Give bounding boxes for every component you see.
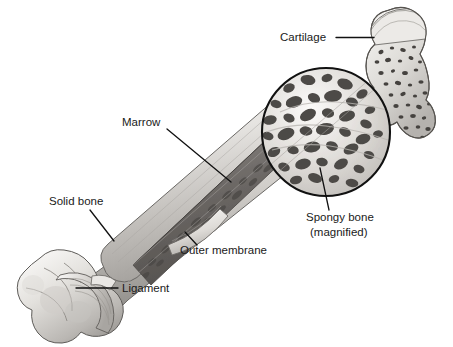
label-solid-bone: Solid bone [49, 195, 103, 207]
bone-illustration-svg: Cartilage Marrow Solid bone Outer membra… [0, 0, 453, 347]
label-outer-membrane: Outer membrane [180, 244, 267, 256]
label-spongy-bone: Spongy bone [306, 211, 374, 223]
bone-anatomy-figure: Cartilage Marrow Solid bone Outer membra… [0, 0, 453, 347]
label-spongy-bone-magnified: (magnified) [310, 226, 368, 238]
label-marrow: Marrow [122, 116, 161, 128]
label-ligament: Ligament [122, 282, 170, 294]
label-cartilage: Cartilage [280, 31, 326, 43]
leader-solid-bone [90, 210, 114, 241]
